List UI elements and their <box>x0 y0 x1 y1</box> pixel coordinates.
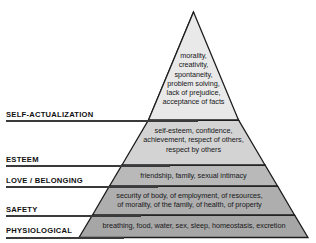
pyramid-tier-esteem <box>122 120 265 165</box>
pyramid-tier-physiological <box>79 215 308 238</box>
tier-rule-self-actualization <box>6 120 198 122</box>
tier-rule-physiological <box>6 237 124 239</box>
maslow-hierarchy-diagram: morality, creativity, spontaneity, probl… <box>0 0 316 243</box>
tier-label-self-actualization: SELF-ACTUALIZATION <box>6 110 93 119</box>
tier-rule-safety <box>6 215 141 217</box>
pyramid-tier-love-belonging <box>110 165 278 186</box>
tier-label-physiological: PHYSIOLOGICAL <box>6 226 72 235</box>
tier-label-safety: SAFETY <box>6 205 37 214</box>
tier-rule-esteem <box>6 165 170 167</box>
pyramid-apex <box>149 12 239 120</box>
tier-label-love-belonging: LOVE / BELONGING <box>6 176 83 185</box>
tier-label-esteem: ESTEEM <box>6 155 39 164</box>
pyramid-tier-safety <box>93 186 295 215</box>
tier-rule-love-belonging <box>6 186 158 188</box>
